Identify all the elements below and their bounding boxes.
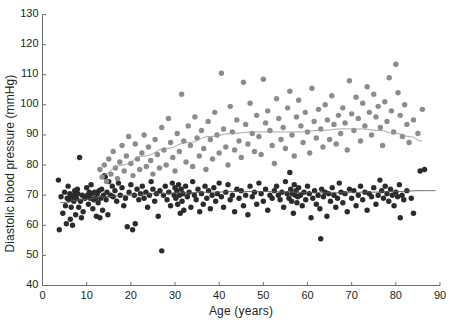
data-point (303, 110, 308, 115)
data-point (137, 167, 142, 172)
data-point (362, 123, 367, 128)
data-point (192, 114, 197, 119)
data-point (193, 197, 198, 202)
x-tick-label: 10 (72, 289, 102, 301)
data-point (210, 156, 215, 161)
data-point (307, 150, 312, 155)
data-point (221, 205, 226, 210)
data-point (263, 186, 268, 191)
data-point (338, 131, 343, 136)
data-point (334, 141, 339, 146)
data-point (317, 206, 322, 211)
x-tick-label: 90 (425, 289, 452, 301)
data-point (163, 183, 168, 188)
data-point (328, 198, 333, 203)
data-point (223, 144, 228, 149)
data-point (356, 116, 361, 121)
data-point (373, 201, 378, 206)
data-point (375, 192, 380, 197)
data-point (324, 214, 329, 219)
data-point (208, 206, 213, 211)
data-point (157, 188, 162, 193)
data-point (269, 143, 274, 148)
data-point (186, 123, 191, 128)
data-point (360, 197, 365, 202)
data-point (241, 80, 246, 85)
data-point (181, 208, 186, 213)
data-point (148, 179, 153, 184)
data-point (146, 144, 151, 149)
x-tick-label: 40 (204, 289, 234, 301)
data-point (422, 167, 427, 172)
data-point (140, 183, 145, 188)
data-point (84, 185, 89, 190)
data-point (291, 211, 296, 216)
data-point (415, 131, 420, 136)
data-point (322, 102, 327, 107)
data-point (309, 86, 314, 91)
data-point (316, 107, 321, 112)
data-point (186, 189, 191, 194)
data-point (283, 179, 288, 184)
data-point (327, 137, 332, 142)
data-point (296, 98, 301, 103)
data-point (277, 197, 282, 202)
data-point (124, 153, 129, 158)
data-point (159, 248, 164, 253)
data-point (56, 177, 61, 182)
data-point (326, 191, 331, 196)
data-point (170, 180, 175, 185)
data-point (380, 143, 385, 148)
data-point (213, 198, 218, 203)
data-point (164, 197, 169, 202)
data-point (307, 191, 312, 196)
data-point (90, 206, 95, 211)
scatter-plot-figure: Diastolic blood pressure (mmHg) 40506070… (0, 0, 452, 327)
data-point (342, 120, 347, 125)
x-tick-label: 20 (116, 289, 146, 301)
data-point (367, 110, 372, 115)
data-point (254, 201, 259, 206)
data-point (292, 182, 297, 187)
data-point (188, 205, 193, 210)
data-point (393, 61, 398, 66)
data-point (377, 177, 382, 182)
data-point (157, 165, 162, 170)
data-point (281, 125, 286, 130)
data-point (369, 132, 374, 137)
data-point (395, 90, 400, 95)
data-point (211, 185, 216, 190)
data-point (134, 186, 139, 191)
series-gray-points (97, 61, 425, 184)
data-point (236, 138, 241, 143)
data-point (274, 183, 279, 188)
data-point (152, 137, 157, 142)
data-point (404, 122, 409, 127)
data-point (294, 114, 299, 119)
data-point (230, 192, 235, 197)
data-point (208, 137, 213, 142)
data-point (152, 198, 157, 203)
data-point (114, 198, 119, 203)
data-point (265, 208, 270, 213)
data-point (411, 211, 416, 216)
plot-canvas (0, 0, 452, 327)
data-point (384, 119, 389, 124)
data-point (347, 78, 352, 83)
x-tick-label: 60 (293, 289, 323, 301)
data-point (119, 185, 124, 190)
data-point (337, 180, 342, 185)
data-point (398, 113, 403, 118)
data-point (106, 156, 111, 161)
data-point (70, 223, 75, 228)
data-point (285, 105, 290, 110)
data-point (147, 192, 152, 197)
y-tick-label: 130 (2, 7, 39, 19)
data-point (212, 110, 217, 115)
data-point (110, 149, 115, 154)
data-point (254, 113, 259, 118)
data-point (294, 200, 299, 205)
x-tick-label: 70 (337, 289, 367, 301)
y-tick-label: 110 (2, 67, 39, 79)
data-point (58, 194, 63, 199)
